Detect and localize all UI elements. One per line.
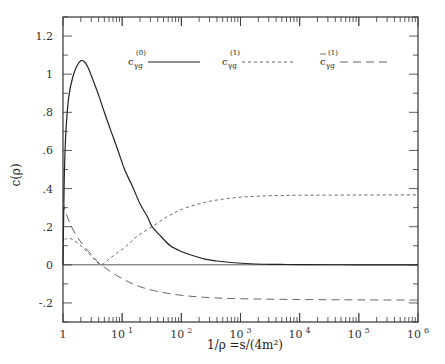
x-tick-label: 105 xyxy=(348,326,370,341)
svg-text:γg: γg xyxy=(326,62,335,70)
svg-text:(1): (1) xyxy=(230,49,240,57)
legend-entry-0: cγg(0) xyxy=(128,49,200,70)
legend-entry-1: cγg(1) xyxy=(222,49,294,70)
data-series xyxy=(63,60,418,300)
x-tick-label: 102 xyxy=(170,326,192,341)
x-tick-label: 104 xyxy=(289,326,311,341)
y-tick-label: .6 xyxy=(43,144,54,157)
series-line-0 xyxy=(63,60,418,264)
x-tick-label: 101 xyxy=(111,326,133,341)
y-tick-label: 1.2 xyxy=(36,30,54,43)
y-tick-label: 0 xyxy=(46,259,53,272)
chart-canvas: 1101102103104105106 1.21.8.6.4.20-.2 cγg… xyxy=(0,0,445,364)
y-tick-label: .8 xyxy=(43,106,54,119)
series-line-2 xyxy=(63,202,418,300)
legend-entry-2: cγg(1) xyxy=(320,49,392,70)
svg-text:(1): (1) xyxy=(328,49,338,57)
legend: cγg(0)cγg(1)cγg(1) xyxy=(128,49,392,70)
y-axis-title: c(ρ) xyxy=(9,163,23,186)
x-axis-title: 1/ρ =s/(4m²) xyxy=(207,338,283,352)
x-axis-ticks: 1101102103104105106 xyxy=(60,17,430,341)
plot-frame xyxy=(63,17,418,322)
y-tick-label: .4 xyxy=(43,183,54,196)
y-tick-label: .2 xyxy=(43,221,54,234)
series-line-1 xyxy=(63,195,418,265)
x-tick-label: 1 xyxy=(60,328,67,341)
svg-text:γg: γg xyxy=(134,62,143,70)
y-tick-label: -.2 xyxy=(39,297,53,310)
y-tick-label: 1 xyxy=(46,68,53,81)
svg-text:(0): (0) xyxy=(136,49,146,57)
x-tick-label: 106 xyxy=(407,326,429,341)
svg-text:γg: γg xyxy=(228,62,237,70)
